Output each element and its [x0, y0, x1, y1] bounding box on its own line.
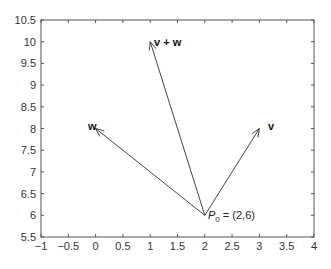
- x-tick-label: 2: [202, 240, 208, 252]
- vector-w: [96, 129, 205, 216]
- x-tick-label: 3: [256, 240, 262, 252]
- x-tick-label: 2.5: [224, 240, 239, 252]
- vector-v: [205, 129, 260, 216]
- label-v-plus-w: v + w: [154, 36, 182, 48]
- y-tick-label: 6: [30, 209, 36, 221]
- vector-plot: −1−0.500.511.522.533.54 5.566.577.588.59…: [0, 0, 331, 269]
- x-tick-label: −0.5: [57, 240, 79, 252]
- x-tick-label: 3.5: [279, 240, 294, 252]
- x-tick-label: 0.5: [115, 240, 130, 252]
- y-tick-label: 5.5: [21, 231, 36, 243]
- y-tick-label: 6.5: [21, 188, 36, 200]
- y-tick-label: 7: [30, 166, 36, 178]
- y-tick-label: 7.5: [21, 144, 36, 156]
- y-tick-label: 8.5: [21, 101, 36, 113]
- x-tick-label: 0: [93, 240, 99, 252]
- label-p0: P0 = (2,6): [208, 209, 255, 224]
- x-tick-label: 1: [147, 240, 153, 252]
- y-tick-label: 10: [24, 36, 36, 48]
- label-p0-rest: = (2,6): [220, 209, 255, 221]
- x-tick-label: −1: [35, 240, 48, 252]
- x-tick-label: 4: [311, 240, 317, 252]
- x-axis-ticks: −1−0.500.511.522.533.54: [35, 20, 317, 252]
- x-tick-label: 1.5: [170, 240, 185, 252]
- label-v: v: [268, 120, 275, 132]
- vector-vw: [150, 42, 205, 216]
- y-tick-label: 9.5: [21, 57, 36, 69]
- vectors: [96, 42, 260, 216]
- y-tick-label: 9: [30, 79, 36, 91]
- label-w: w: [87, 120, 97, 132]
- arrowhead-icon: [252, 129, 259, 138]
- y-tick-label: 10.5: [15, 14, 36, 26]
- y-tick-label: 8: [30, 123, 36, 135]
